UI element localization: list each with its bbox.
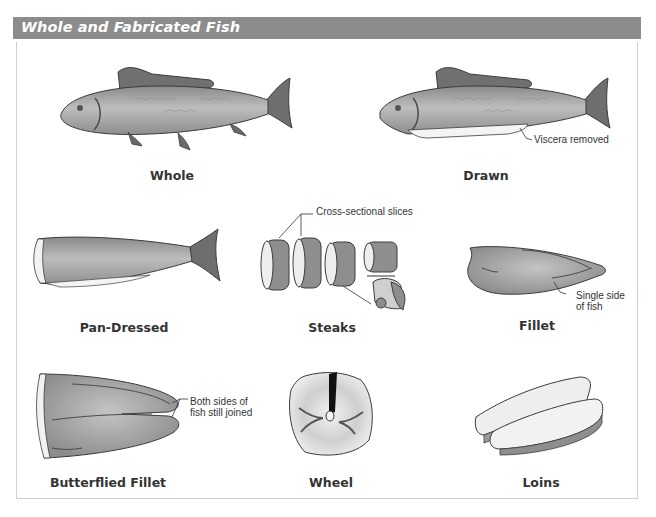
callout-viscera-removed: Viscera removed	[534, 134, 609, 145]
figure-title: Whole and Fabricated Fish	[21, 19, 240, 35]
butterflied-fillet-illustration	[32, 370, 192, 460]
loins-illustration	[470, 375, 610, 455]
callout-line-2: fish still joined	[190, 407, 252, 418]
wheel-illustration	[285, 370, 375, 460]
label-butterflied-fillet: Butterflied Fillet	[50, 475, 166, 490]
pan-dressed-figure	[30, 225, 230, 295]
label-fillet: Fillet	[519, 318, 555, 333]
whole-fish-figure	[50, 60, 300, 160]
label-drawn: Drawn	[463, 168, 508, 183]
loins-figure	[470, 375, 610, 455]
fillet-figure	[462, 238, 612, 298]
callout-line-1: Both sides of	[190, 396, 252, 407]
fillet-illustration	[462, 238, 612, 298]
callout-both-sides-joined: Both sides of fish still joined	[190, 396, 252, 418]
label-whole: Whole	[150, 168, 194, 183]
butterflied-fillet-figure	[32, 370, 192, 460]
callout-cross-sectional-slices: Cross-sectional slices	[316, 206, 413, 217]
steaks-figure	[255, 220, 425, 315]
callout-leader-butterflied	[170, 395, 190, 425]
drawn-fish-figure	[368, 60, 618, 160]
figure-header: Whole and Fabricated Fish	[13, 17, 641, 39]
callout-line-1: Single side	[576, 290, 625, 301]
label-wheel: Wheel	[309, 475, 353, 490]
label-pan-dressed: Pan-Dressed	[80, 320, 169, 335]
callout-line-2: of fish	[576, 301, 625, 312]
whole-fish-illustration	[50, 60, 300, 160]
drawn-fish-illustration	[368, 60, 618, 160]
pan-dressed-illustration	[30, 225, 230, 295]
wheel-figure	[285, 370, 375, 460]
label-loins: Loins	[522, 475, 559, 490]
label-steaks: Steaks	[308, 320, 356, 335]
steaks-illustration	[255, 220, 425, 315]
callout-single-side-of-fish: Single side of fish	[576, 290, 625, 312]
